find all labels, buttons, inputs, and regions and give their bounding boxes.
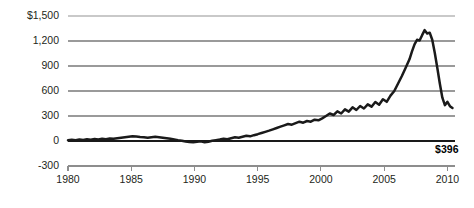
x-tick-label-1990: 1990 — [183, 173, 207, 185]
x-tick-label-2000: 2000 — [309, 173, 333, 185]
x-tick-label-1995: 1995 — [246, 173, 270, 185]
y-tick-label--300: -300 — [38, 159, 59, 171]
y-tick-label-600: 600 — [41, 84, 59, 96]
y-tick-label-1200: 1,200 — [33, 34, 59, 46]
gridlines — [68, 16, 455, 116]
x-axis — [68, 166, 455, 171]
y-tick-label-0: 0 — [53, 134, 59, 146]
x-tick-label-1980: 1980 — [56, 173, 80, 185]
data-series — [68, 30, 452, 142]
x-tick-label-2010: 2010 — [436, 173, 460, 185]
y-axis-tick-labels: -30003006009001,200$1,500 — [27, 9, 59, 171]
endpoint-value: $396 — [435, 143, 459, 155]
line-chart: -30003006009001,200$1,500 19801985199019… — [0, 0, 474, 208]
y-tick-label-900: 900 — [41, 59, 59, 71]
chart-container: -30003006009001,200$1,500 19801985199019… — [0, 0, 474, 208]
y-tick-label-300: 300 — [41, 109, 59, 121]
y-tick-label-1500: $1,500 — [27, 9, 59, 21]
x-tick-label-2005: 2005 — [372, 173, 396, 185]
chart-annotations: $396 — [435, 143, 459, 155]
x-tick-label-1985: 1985 — [120, 173, 144, 185]
series-line-value — [68, 30, 452, 142]
x-axis-tick-labels: 1980198519901995200020052010 — [56, 173, 459, 185]
